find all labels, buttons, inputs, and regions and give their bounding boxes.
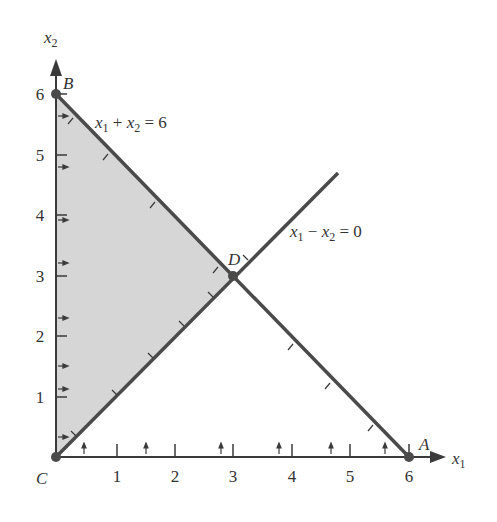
x2-axis-label: x2 [43, 28, 58, 50]
svg-text:4: 4 [36, 206, 45, 225]
feasible-region [56, 94, 233, 457]
x-axis-direction-arrows [82, 443, 387, 454]
svg-text:3: 3 [36, 267, 45, 286]
svg-text:6: 6 [405, 467, 414, 486]
x2-axis-arrow-icon [50, 59, 62, 76]
svg-text:1: 1 [36, 388, 45, 407]
x-ticks [117, 444, 409, 457]
constraint1-label: x1 + x2 = 6 [94, 113, 167, 135]
svg-text:3: 3 [229, 467, 238, 486]
svg-text:4: 4 [288, 467, 297, 486]
svg-text:2: 2 [171, 467, 180, 486]
label-c: C [36, 469, 48, 488]
svg-text:5: 5 [36, 146, 45, 165]
label-a: A [418, 435, 430, 454]
svg-text:6: 6 [36, 85, 45, 104]
y-tick-labels: 1 2 3 4 5 6 [36, 85, 45, 407]
x1-axis-label: x1 [451, 449, 466, 471]
lp-diagram: 1 2 3 4 5 6 1 2 3 4 5 6 x1 x2 B C A D x1… [0, 0, 497, 522]
svg-text:5: 5 [346, 467, 355, 486]
point-a [404, 452, 414, 462]
point-c [51, 452, 61, 462]
svg-text:2: 2 [36, 327, 45, 346]
label-d: D [227, 250, 241, 269]
point-b [51, 89, 61, 99]
svg-text:1: 1 [113, 467, 122, 486]
label-b: B [63, 74, 74, 93]
x-tick-labels: 1 2 3 4 5 6 [113, 467, 414, 486]
x1-axis-arrow-icon [430, 451, 446, 463]
constraint2-label: x1 − x2 = 0 [289, 222, 362, 244]
point-d [228, 271, 238, 281]
